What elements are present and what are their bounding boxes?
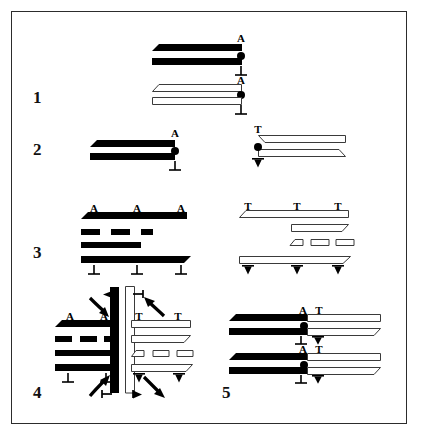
p3-inverted-perp-icon-2 bbox=[290, 265, 304, 277]
panel-number-2: 2 bbox=[33, 141, 42, 158]
p2-black-bar-lower bbox=[90, 153, 175, 163]
p4-rotation-arrow-bottom-right bbox=[142, 375, 170, 399]
p5-row2-black-upper bbox=[229, 353, 307, 363]
p1-black-bar-lower bbox=[152, 58, 242, 68]
p2-inverted-perp-icon bbox=[251, 158, 265, 170]
p3-black-row-1 bbox=[81, 212, 187, 222]
p4-rotation-arrow-top-right bbox=[142, 296, 170, 320]
p4-black-fragments bbox=[55, 336, 111, 345]
p2-marker-a: A bbox=[169, 128, 181, 139]
p3-perp-icon-3 bbox=[174, 265, 188, 277]
panel-number-4: 4 bbox=[33, 384, 42, 401]
p3-perp-icon-2 bbox=[130, 265, 144, 277]
p5-row2-white-upper bbox=[307, 353, 381, 363]
p3-inverted-perp-icon-3 bbox=[331, 265, 345, 277]
panel-number-1: 1 bbox=[33, 89, 42, 106]
p5-row1-white-upper bbox=[307, 314, 381, 324]
p4-tick-top-left bbox=[101, 290, 115, 300]
p4-black-row-1 bbox=[55, 320, 111, 330]
panel-number-5: 5 bbox=[222, 384, 231, 401]
p2-perp-icon bbox=[168, 161, 182, 173]
p1-white-bar-lower bbox=[152, 97, 242, 107]
p4-black-row-3 bbox=[55, 350, 111, 359]
p4-tick-top-right bbox=[132, 290, 146, 300]
panel-number-3: 3 bbox=[33, 244, 42, 261]
p2-dot-right bbox=[254, 143, 262, 151]
p2-white-bar-upper bbox=[258, 135, 346, 145]
p3-white-row-2 bbox=[291, 224, 349, 234]
p4-white-row-2 bbox=[131, 335, 191, 345]
figure-root: 1 2 3 4 5 A A bbox=[0, 0, 421, 437]
p2-white-bar-lower bbox=[258, 149, 346, 159]
p2-marker-t: T bbox=[252, 124, 264, 135]
p3-white-fragments bbox=[239, 239, 349, 248]
p4-inverted-perp-icon-2 bbox=[172, 373, 186, 385]
p1-marker-a-top: A bbox=[235, 33, 247, 44]
p3-perp-icon-1 bbox=[87, 265, 101, 277]
p2-dot-left bbox=[171, 147, 179, 155]
p5-inverted-perp-icon-2 bbox=[311, 375, 325, 386]
p1-white-bar-upper bbox=[152, 84, 242, 94]
p3-black-fragments bbox=[81, 229, 187, 238]
p5-row1-black-upper bbox=[229, 314, 307, 324]
p1-perp-bottom-icon bbox=[234, 105, 248, 117]
p4-tick-bottom-left bbox=[101, 390, 115, 400]
p1-dot-top bbox=[237, 52, 245, 60]
p3-inverted-perp-icon-1 bbox=[241, 265, 255, 277]
p4-perp-icon-1 bbox=[61, 373, 75, 385]
p1-black-bar-upper bbox=[152, 44, 242, 54]
p3-white-row-1 bbox=[239, 210, 349, 220]
p4-white-fragments bbox=[131, 350, 197, 359]
p5-perp-icon-2 bbox=[294, 375, 308, 386]
p2-black-bar-upper bbox=[90, 140, 175, 150]
p4-tick-bottom-right bbox=[132, 390, 146, 400]
p4-white-row-1 bbox=[131, 320, 191, 330]
p3-black-row-3 bbox=[81, 242, 187, 251]
